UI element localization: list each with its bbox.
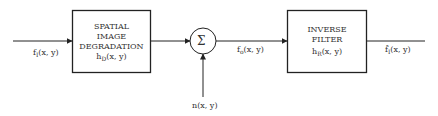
diagram-canvas <box>0 0 438 116</box>
block1-func-args: (x, y) <box>106 52 126 61</box>
output-label-args: (x, y) <box>390 45 410 54</box>
intermediate-label: fo(x, y) <box>237 45 264 55</box>
block2-line-2: FILTER <box>287 35 367 45</box>
block1-function: hD(x, y) <box>72 52 151 62</box>
output-label: f̂I(x, y) <box>385 45 411 55</box>
noise-label: n(x, y) <box>192 101 218 111</box>
block1-line-2: IMAGE <box>72 32 151 42</box>
block1-line-3: DEGRADATION <box>72 42 151 52</box>
inverse-filter-block-text: INVERSE FILTER hR(x, y) <box>287 25 367 57</box>
input-label-args: (x, y) <box>38 48 58 57</box>
block1-line-1: SPATIAL <box>72 22 151 32</box>
block2-line-1: INVERSE <box>287 25 367 35</box>
input-label: fI(x, y) <box>33 48 59 58</box>
degradation-block-text: SPATIAL IMAGE DEGRADATION hD(x, y) <box>72 22 151 62</box>
block2-function: hR(x, y) <box>287 47 367 57</box>
intermediate-label-args: (x, y) <box>244 45 264 54</box>
block2-func-args: (x, y) <box>322 47 342 56</box>
sigma-symbol: Σ <box>197 34 205 48</box>
